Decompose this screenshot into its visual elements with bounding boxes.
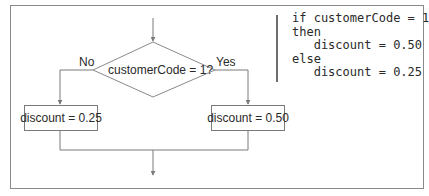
no-action-label: discount = 0.25 xyxy=(20,111,102,125)
no-branch-line xyxy=(60,70,93,104)
code-line: else xyxy=(292,53,429,67)
yes-branch-line xyxy=(215,70,248,104)
no-branch-label: No xyxy=(79,56,94,68)
code-line: if customerCode = 1 xyxy=(292,12,429,26)
code-line: discount = 0.50 xyxy=(292,39,429,53)
decision-label: customerCode = 1? xyxy=(108,64,213,76)
yes-branch-label: Yes xyxy=(216,56,236,68)
merge-line xyxy=(60,131,248,150)
pseudocode-block: if customerCode = 1then discount = 0.50e… xyxy=(292,12,429,80)
no-action-box: discount = 0.25 xyxy=(24,105,98,131)
code-divider xyxy=(276,15,278,82)
yes-action-label: discount = 0.50 xyxy=(207,111,289,125)
code-line: discount = 0.25 xyxy=(292,66,429,80)
code-line: then xyxy=(292,26,429,40)
yes-action-box: discount = 0.50 xyxy=(211,105,285,131)
